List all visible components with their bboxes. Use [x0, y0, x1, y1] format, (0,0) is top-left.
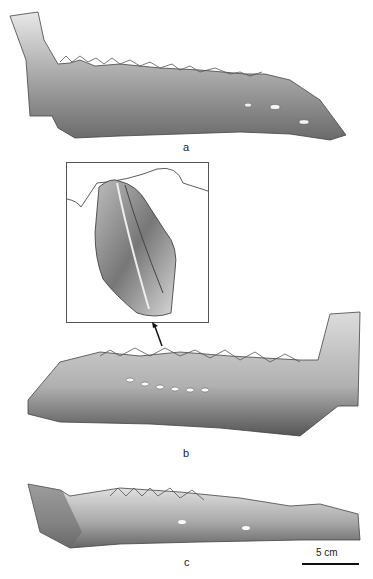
jaw-drawing-b [0, 300, 373, 445]
scale-bar-label: 5 cm [316, 547, 338, 558]
scale-bar [302, 563, 359, 565]
panel-label-a: a [183, 141, 189, 153]
tooth-drawing [67, 163, 208, 322]
jaw-drawing-c [0, 470, 373, 550]
jaw-drawing-a [0, 0, 373, 145]
panel-label-c: c [184, 556, 190, 568]
tooth-detail-inset [66, 162, 209, 323]
panel-label-b: b [183, 447, 189, 459]
